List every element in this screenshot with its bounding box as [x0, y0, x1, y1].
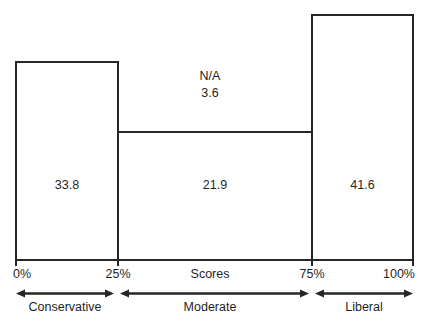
bar-conservative [15, 61, 119, 261]
bar-moderate [117, 131, 313, 261]
na-annotation-value: 3.6 [155, 85, 265, 102]
x-axis-title: Scores [165, 267, 255, 281]
range-label-liberal: Liberal [309, 300, 419, 315]
x-axis-line [15, 259, 414, 261]
double-arrow-icon [16, 288, 114, 299]
x-axis-tick-label-25: 25% [93, 267, 143, 281]
na-annotation: N/A 3.6 [155, 68, 265, 102]
x-axis-tick-label-0: 0% [13, 267, 31, 281]
histogram-chart: 33.8 21.9 41.6 N/A 3.6 0% 25% 75% 100% S… [0, 0, 427, 323]
bar-value-moderate: 21.9 [117, 178, 313, 192]
range-arrow-moderate [120, 285, 309, 296]
bar-liberal [311, 14, 414, 261]
bar-value-conservative: 33.8 [15, 178, 119, 192]
range-arrow-conservative [16, 285, 114, 296]
x-axis-tick-label-75: 75% [287, 267, 337, 281]
range-label-conservative: Conservative [10, 300, 120, 315]
x-axis-tick-100 [412, 259, 414, 266]
double-arrow-icon [315, 288, 413, 299]
na-annotation-label: N/A [155, 68, 265, 85]
x-axis-tick-label-100: 100% [375, 267, 415, 281]
x-axis-tick-0 [15, 259, 17, 266]
bar-value-liberal: 41.6 [311, 178, 414, 192]
x-axis-tick-25 [117, 259, 119, 266]
range-arrow-liberal [315, 285, 413, 296]
range-label-moderate: Moderate [155, 300, 265, 315]
double-arrow-icon [120, 288, 309, 299]
x-axis-tick-75 [311, 259, 313, 266]
